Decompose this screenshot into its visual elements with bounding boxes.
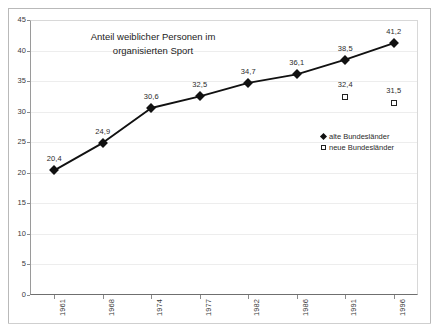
data-point-label: 20,4 [47, 154, 62, 163]
x-axis-tick-label: 1982 [252, 299, 261, 316]
legend-label: neue Bundesländer [328, 143, 394, 152]
open-square-icon [318, 145, 328, 150]
chart-legend: alte Bundesländer neue Bundesländer [318, 131, 394, 153]
y-axis-tick-label: 35 [4, 77, 26, 85]
x-axis-tick-mark [151, 295, 152, 299]
legend-label: alte Bundesländer [328, 132, 389, 141]
y-axis-tick-mark [27, 295, 30, 296]
gridline [31, 264, 417, 265]
chart-title: Anteil weiblicher Personen im organisier… [58, 30, 248, 58]
x-axis-tick-mark [394, 295, 395, 299]
figure-bottom-rule [8, 323, 431, 324]
y-axis-tick-label: 0 [4, 291, 26, 299]
data-point-label: 24,9 [95, 127, 110, 136]
legend-item-alte-bundeslaender: alte Bundesländer [318, 131, 394, 142]
data-point-marker [342, 94, 348, 100]
legend-item-neue-bundeslaender: neue Bundesländer [318, 142, 394, 153]
gridline [31, 81, 417, 82]
x-axis-tick-label: 1991 [349, 299, 358, 316]
data-point-marker [391, 100, 397, 106]
gridline [31, 173, 417, 174]
x-axis-tick-mark [200, 295, 201, 299]
x-axis-tick-label: 1986 [301, 299, 310, 316]
x-axis-tick-mark [297, 295, 298, 299]
chart-title-line-1: Anteil weiblicher Personen im [58, 30, 248, 44]
y-axis-tick-label: 10 [4, 230, 26, 238]
y-axis-tick-label: 5 [4, 260, 26, 268]
chart-title-line-2: organisierten Sport [58, 44, 248, 58]
data-point-label: 36,1 [289, 58, 304, 67]
x-axis-tick-label: 1968 [107, 299, 116, 316]
chart-container: 051015202530354045 Anteil weiblicher Per… [0, 0, 440, 333]
y-axis-tick-label: 45 [4, 16, 26, 24]
x-axis-tick-mark [54, 295, 55, 299]
x-axis-tick-label: 1961 [58, 299, 67, 316]
data-point-label: 41,2 [386, 27, 401, 36]
x-axis-tick-mark [103, 295, 104, 299]
x-axis-tick-label: 1977 [204, 299, 213, 316]
gridline [31, 203, 417, 204]
y-axis-tick-label: 20 [4, 169, 26, 177]
y-axis-tick-label: 15 [4, 199, 26, 207]
gridline [31, 112, 417, 113]
gridline [31, 234, 417, 235]
y-axis-tick-label: 40 [4, 47, 26, 55]
data-point-label: 32,5 [192, 80, 207, 89]
x-axis-tick-label: 1974 [155, 299, 164, 316]
data-point-label: 34,7 [241, 67, 256, 76]
plot-area [30, 20, 418, 295]
data-point-label: 31,5 [386, 86, 401, 95]
x-axis-tick-label: 1996 [398, 299, 407, 316]
x-axis-tick-mark [248, 295, 249, 299]
data-point-label: 32,4 [338, 80, 353, 89]
x-axis-tick-mark [345, 295, 346, 299]
data-point-label: 38,5 [338, 44, 353, 53]
data-point-label: 30,6 [144, 92, 159, 101]
y-axis-tick-label: 25 [4, 138, 26, 146]
filled-diamond-icon [318, 134, 328, 139]
y-axis-tick-label: 30 [4, 108, 26, 116]
